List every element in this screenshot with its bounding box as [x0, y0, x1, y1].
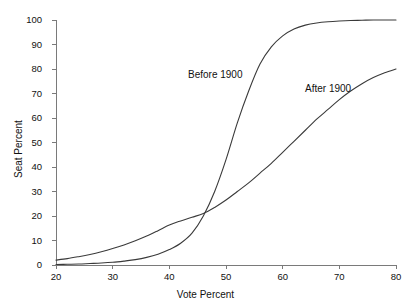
- y-tick-label-30: 30: [16, 187, 42, 197]
- axes: [52, 20, 396, 269]
- data-series: [56, 20, 396, 265]
- y-axis-title: Seat Percent: [14, 120, 24, 178]
- series-line-before-1900: [56, 20, 396, 265]
- y-tick-label-70: 70: [16, 89, 42, 99]
- x-axis-title: Vote Percent: [0, 290, 411, 300]
- x-tick-label-50: 50: [212, 272, 240, 282]
- x-tick-label-20: 20: [42, 272, 70, 282]
- series-label-after-1900: After 1900: [305, 84, 351, 94]
- y-tick-label-20: 20: [16, 211, 42, 221]
- series-line-after-1900: [56, 69, 396, 260]
- x-tick-label-60: 60: [269, 272, 297, 282]
- series-label-before-1900: Before 1900: [188, 70, 243, 80]
- x-tick-label-30: 30: [99, 272, 127, 282]
- y-tick-label-90: 90: [16, 40, 42, 50]
- x-tick-label-40: 40: [155, 272, 183, 282]
- y-tick-label-0: 0: [16, 260, 42, 270]
- plot-canvas: [0, 0, 411, 308]
- y-tick-label-10: 10: [16, 236, 42, 246]
- x-tick-label-80: 80: [382, 272, 410, 282]
- x-tick-label-70: 70: [325, 272, 353, 282]
- y-tick-label-80: 80: [16, 64, 42, 74]
- y-tick-label-100: 100: [16, 15, 42, 25]
- seats-votes-chart: 0 10 20 30 40 50 60 70 80 90 100 20 30 4…: [0, 0, 411, 308]
